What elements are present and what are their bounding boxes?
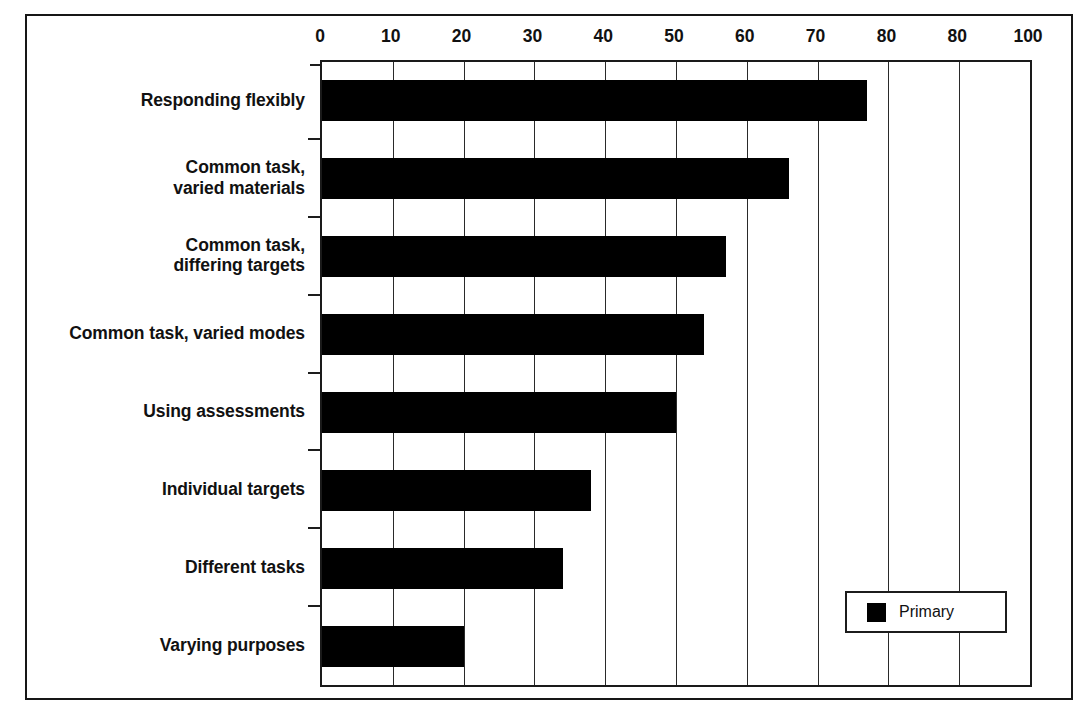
- category-label-1: Common task,varied materials: [27, 157, 305, 198]
- category-label-2: Common task,differing targets: [27, 235, 305, 276]
- x-tick-label-6: 60: [735, 26, 754, 47]
- legend-swatch-primary: [867, 603, 886, 622]
- x-tick-label-1: 10: [381, 26, 400, 47]
- x-tick-label-5: 50: [664, 26, 683, 47]
- category-label-3: Common task, varied modes: [27, 323, 305, 343]
- category-label-line: varied materials: [27, 178, 305, 198]
- x-tick-label-7: 70: [806, 26, 825, 47]
- bar-2: [322, 236, 726, 277]
- x-tick-label-8: 80: [877, 26, 896, 47]
- bar-7: [322, 626, 464, 667]
- category-label-0: Responding flexibly: [27, 90, 305, 110]
- bar-4: [322, 392, 676, 433]
- category-label-line: Common task,: [27, 157, 305, 177]
- x-tick-label-10: 100: [1013, 26, 1042, 47]
- bar-1: [322, 158, 789, 199]
- gridline-x-40: [605, 62, 606, 685]
- bar-5: [322, 470, 591, 511]
- category-label-line: differing targets: [27, 255, 305, 275]
- gridline-x-10: [393, 62, 394, 685]
- gridline-x-60: [747, 62, 748, 685]
- category-label-line: Using assessments: [27, 401, 305, 421]
- bar-6: [322, 548, 563, 589]
- gridline-x-50: [676, 62, 677, 685]
- category-label-line: Different tasks: [27, 557, 305, 577]
- chart-legend: Primary: [845, 591, 1007, 633]
- bar-3: [322, 314, 704, 355]
- x-tick-label-4: 40: [593, 26, 612, 47]
- legend-label-primary: Primary: [899, 603, 954, 621]
- category-label-column: Responding flexiblyCommon task,varied ma…: [27, 61, 313, 666]
- category-label-6: Different tasks: [27, 557, 305, 577]
- x-tick-label-9: 80: [947, 26, 966, 47]
- gridline-x-30: [534, 62, 535, 685]
- x-tick-label-3: 30: [523, 26, 542, 47]
- category-label-line: Varying purposes: [27, 635, 305, 655]
- category-label-7: Varying purposes: [27, 635, 305, 655]
- category-label-line: Common task, varied modes: [27, 323, 305, 343]
- category-label-line: Individual targets: [27, 479, 305, 499]
- category-label-line: Responding flexibly: [27, 90, 305, 110]
- gridline-x-100: [1030, 62, 1031, 685]
- x-axis-tick-labels: 0102030405060708080100: [320, 26, 1032, 56]
- category-label-line: Common task,: [27, 235, 305, 255]
- x-tick-label-2: 20: [452, 26, 471, 47]
- x-tick-label-0: 0: [315, 26, 325, 47]
- gridline-x-70: [818, 62, 819, 685]
- gridline-x-20: [464, 62, 465, 685]
- bar-0: [322, 80, 867, 121]
- category-label-4: Using assessments: [27, 401, 305, 421]
- category-label-5: Individual targets: [27, 479, 305, 499]
- chart-figure-frame: 0102030405060708080100 Responding flexib…: [25, 14, 1073, 700]
